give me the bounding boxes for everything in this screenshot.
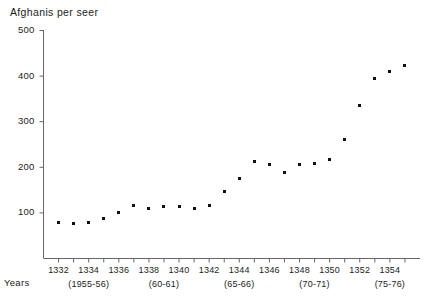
x-axis-tick-label: 1346: [252, 265, 286, 275]
data-point: [358, 104, 361, 107]
data-point: [328, 158, 331, 161]
x-axis-tick-label: 1348: [283, 265, 317, 275]
x-axis-tick-label: 1354: [373, 265, 407, 275]
y-axis-tick-label: 200: [5, 161, 35, 172]
data-point: [283, 171, 286, 174]
x-axis-group-label: (1955-56): [54, 279, 124, 289]
data-point: [102, 217, 105, 220]
x-axis-tick-label: 1352: [343, 265, 377, 275]
chart-container: Afghanis per seer Years 1002003004005001…: [0, 0, 434, 308]
y-axis-tick-label: 300: [5, 115, 35, 126]
x-axis-tick-label: 1336: [102, 265, 136, 275]
y-axis-tick-label: 400: [5, 70, 35, 81]
y-axis-tick-label: 500: [5, 24, 35, 35]
data-point: [147, 207, 150, 210]
data-point: [223, 190, 226, 193]
data-point: [253, 160, 256, 163]
data-point: [117, 211, 120, 214]
data-point: [238, 177, 241, 180]
x-axis-tick-label: 1342: [192, 265, 226, 275]
data-point: [298, 163, 301, 166]
data-point: [268, 163, 271, 166]
data-point: [162, 205, 165, 208]
x-axis-tick-label: 1334: [72, 265, 106, 275]
data-point: [343, 138, 346, 141]
x-axis-tick-label: 1338: [132, 265, 166, 275]
x-axis-tick-label: 1340: [162, 265, 196, 275]
x-axis-tick-label: 1332: [42, 265, 76, 275]
x-axis-tick-label: 1350: [313, 265, 347, 275]
data-point: [132, 204, 135, 207]
data-point: [193, 207, 196, 210]
x-axis-group-label: (60-61): [129, 279, 199, 289]
x-axis-group-label: (65-66): [204, 279, 274, 289]
data-point: [403, 64, 406, 67]
data-point: [208, 204, 211, 207]
x-axis-tick-label: 1344: [222, 265, 256, 275]
data-point: [373, 77, 376, 80]
plot-area: [0, 0, 434, 308]
x-axis-group-label: (75-76): [355, 279, 425, 289]
data-point: [72, 222, 75, 225]
data-point: [178, 205, 181, 208]
data-point: [57, 221, 60, 224]
y-axis-tick-label: 100: [5, 206, 35, 217]
data-point: [388, 70, 391, 73]
data-point: [313, 162, 316, 165]
x-axis-group-label: (70-71): [280, 279, 350, 289]
data-point: [87, 221, 90, 224]
